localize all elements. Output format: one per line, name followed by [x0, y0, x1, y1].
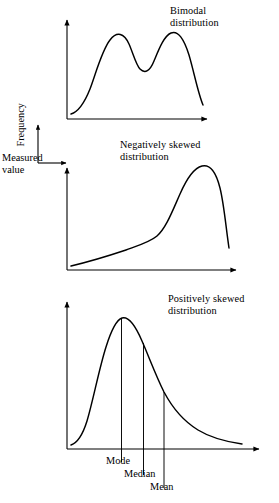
panel-positively-skewed	[67, 302, 259, 488]
distribution-figure: Bimodal distribution Negatively skewed d…	[0, 0, 279, 503]
positively-skewed-title-line2: distribution	[168, 305, 217, 316]
marker-label-mean: Mean	[150, 481, 173, 493]
x-axis-label-line2: value	[2, 164, 24, 175]
y-axis-label-frequency: Frequency	[15, 94, 27, 156]
marker-label-median: Median	[124, 468, 155, 480]
marker-label-mode: Mode	[106, 455, 130, 467]
negatively-skewed-title: Negatively skewed distribution	[120, 139, 200, 162]
panel-negatively-skewed	[67, 166, 236, 270]
figure-canvas	[0, 0, 279, 503]
positive-curve	[71, 318, 242, 445]
bimodal-title-line1: Bimodal	[170, 5, 206, 16]
negative-curve	[71, 166, 229, 266]
negatively-skewed-title-line2: distribution	[120, 151, 169, 162]
positively-skewed-title: Positively skewed distribution	[168, 293, 244, 316]
x-axis-label-line1: Measured	[2, 152, 43, 163]
bimodal-curve	[71, 32, 203, 114]
positively-skewed-title-line1: Positively skewed	[168, 293, 244, 304]
bimodal-title-line2: distribution	[170, 17, 219, 28]
x-axis-label-measured-value: Measured value	[2, 152, 43, 175]
bimodal-title: Bimodal distribution	[170, 5, 219, 28]
panel-bimodal	[67, 20, 207, 119]
negatively-skewed-title-line1: Negatively skewed	[120, 139, 200, 150]
